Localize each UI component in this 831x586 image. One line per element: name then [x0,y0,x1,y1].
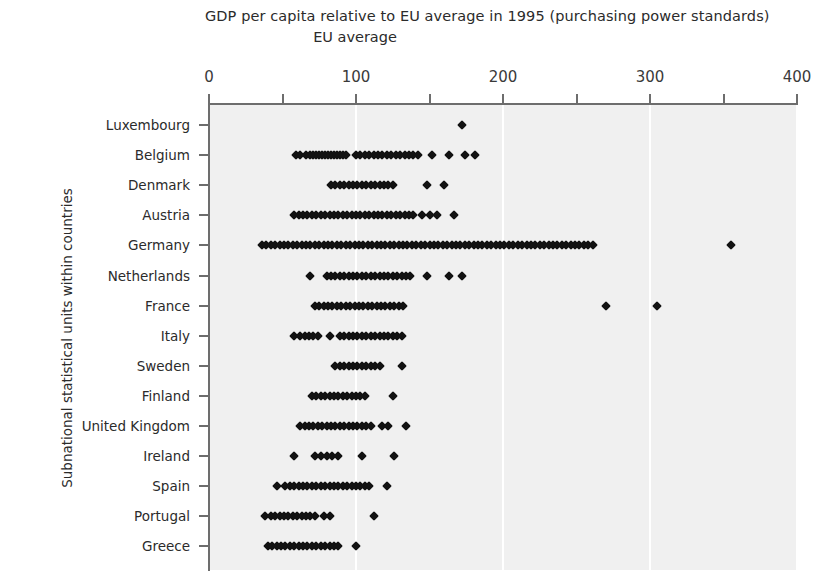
y-axis-label-ireland: Ireland [5,448,190,464]
data-point-ireland [333,451,343,461]
y-tick-united-kingdom [199,425,209,427]
data-point-ireland [289,451,299,461]
x-tick-label-100: 100 [342,68,371,86]
y-tick-france [199,305,209,307]
data-point-italy [325,331,335,341]
x-tick-200 [502,94,504,103]
y-axis-label-belgium: Belgium [5,147,190,163]
x-tick-0 [208,94,210,103]
y-tick-sweden [199,365,209,367]
y-axis-label-denmark: Denmark [5,177,190,193]
data-point-netherlands [422,271,432,281]
y-tick-denmark [199,184,209,186]
y-tick-italy [199,335,209,337]
data-point-portugal [369,511,379,521]
y-axis-label-portugal: Portugal [5,508,190,524]
data-point-united-kingdom [383,421,393,431]
y-tick-spain [199,485,209,487]
data-point-netherlands [305,271,315,281]
data-point-belgium [444,150,454,160]
data-point-denmark [439,180,449,190]
x-tick-150 [429,94,431,103]
plot-area [209,104,797,570]
x-tick-label-300: 300 [636,68,665,86]
data-point-germany [726,240,736,250]
data-point-france [652,301,662,311]
data-point-ireland [389,451,399,461]
y-tick-ireland [199,455,209,457]
y-axis-label-finland: Finland [5,388,190,404]
x-tick-300 [649,94,651,103]
y-axis-label-netherlands: Netherlands [5,268,190,284]
y-axis-label-united-kingdom: United Kingdom [5,418,190,434]
data-point-greece [351,541,361,551]
data-point-united-kingdom [401,421,411,431]
data-point-belgium [460,150,470,160]
chart-subtitle: EU average [205,29,505,45]
y-tick-austria [199,214,209,216]
y-tick-portugal [199,515,209,517]
data-point-belgium [470,150,480,160]
y-tick-luxembourg [199,124,209,126]
chart-figure: GDP per capita relative to EU average in… [0,0,831,586]
y-tick-belgium [199,154,209,156]
data-point-spain [382,481,392,491]
data-point-germany [588,240,598,250]
data-point-austria [432,210,442,220]
x-tick-250 [576,94,578,103]
data-point-finland [388,391,398,401]
data-point-portugal [310,511,320,521]
y-axis-label-sweden: Sweden [5,358,190,374]
y-axis-label-greece: Greece [5,538,190,554]
data-point-france [601,301,611,311]
x-tick-400 [796,94,798,103]
y-axis-label-luxembourg: Luxembourg [5,117,190,133]
data-point-luxembourg [457,120,467,130]
x-tick-50 [282,94,284,103]
y-axis-label-germany: Germany [5,237,190,253]
x-axis-line [209,103,798,105]
x-tick-350 [723,94,725,103]
x-tick-label-200: 200 [489,68,518,86]
y-tick-netherlands [199,275,209,277]
x-tick-100 [355,94,357,103]
y-axis-label-austria: Austria [5,207,190,223]
chart-title: GDP per capita relative to EU average in… [205,8,825,24]
data-point-ireland [357,451,367,461]
data-point-belgium [427,150,437,160]
y-axis-label-italy: Italy [5,328,190,344]
y-axis-label-spain: Spain [5,478,190,494]
data-point-sweden [397,361,407,371]
data-point-netherlands [457,271,467,281]
x-tick-label-400: 400 [783,68,812,86]
y-tick-greece [199,545,209,547]
x-tick-label-0: 0 [204,68,214,86]
y-tick-finland [199,395,209,397]
y-axis-label-france: France [5,298,190,314]
data-point-netherlands [444,271,454,281]
data-point-denmark [422,180,432,190]
y-axis-line [208,103,210,571]
data-point-austria [450,210,460,220]
data-points-layer [209,104,797,570]
y-tick-germany [199,244,209,246]
